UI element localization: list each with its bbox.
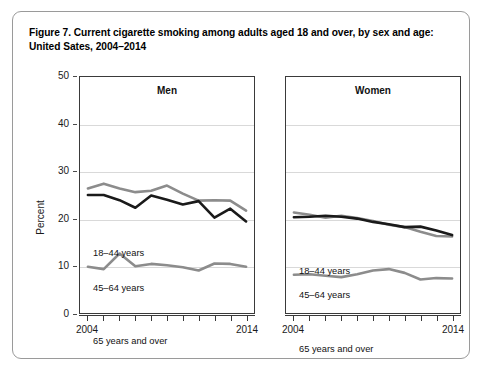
x-tick-2012 [215, 315, 216, 321]
x-label-start: 2004 [273, 324, 313, 335]
x-tick-2011 [405, 315, 406, 321]
x-tick-2014 [453, 315, 454, 321]
y-tick-label-0: 0 [45, 309, 69, 319]
series-label-men-45-64: 45–64 years [93, 283, 144, 293]
y-tick-label-20: 20 [45, 214, 69, 224]
panel-women: Women [285, 76, 461, 314]
series-label-women-45-64: 45–64 years [299, 290, 350, 300]
x-tick-2010 [183, 315, 184, 321]
x-tick-2007 [135, 315, 136, 321]
y-tick-label-30: 30 [45, 166, 69, 176]
y-tick-mark-0 [73, 314, 77, 315]
x-tick-2008 [151, 315, 152, 321]
x-label-start: 2004 [67, 324, 107, 335]
y-tick-label-50: 50 [45, 71, 69, 81]
series-label-men-65-over: 65 years and over [93, 336, 167, 346]
x-tick-2008 [357, 315, 358, 321]
plot-area: Percent 50403020100 Men 18–44 years 45–6… [13, 62, 469, 358]
series-line-45-64-years [294, 216, 452, 235]
x-label-end: 2014 [433, 324, 473, 335]
x-tick-2007 [341, 315, 342, 321]
y-tick-mark-40 [73, 124, 77, 125]
x-tick-2010 [389, 315, 390, 321]
y-tick-label-10: 10 [45, 261, 69, 271]
y-tick-label-40: 40 [45, 119, 69, 129]
x-tick-2012 [421, 315, 422, 321]
series-lines-women [286, 77, 460, 313]
x-tick-2004 [293, 315, 294, 321]
y-tick-mark-50 [73, 76, 77, 77]
y-tick-mark-10 [73, 266, 77, 267]
x-tick-2009 [373, 315, 374, 321]
series-lines-men [80, 77, 254, 313]
x-tick-2005 [103, 315, 104, 321]
x-tick-2014 [247, 315, 248, 321]
x-tick-2011 [199, 315, 200, 321]
x-tick-2005 [309, 315, 310, 321]
x-tick-2009 [167, 315, 168, 321]
x-tick-2013 [437, 315, 438, 321]
y-tick-mark-20 [73, 219, 77, 220]
x-tick-2013 [231, 315, 232, 321]
series-label-men-18-44: 18–44 years [93, 248, 144, 258]
y-tick-mark-30 [73, 171, 77, 172]
y-axis-title: Percent [35, 173, 46, 263]
x-tick-2006 [119, 315, 120, 321]
figure-card: Figure 7. Current cigarette smoking amon… [12, 11, 470, 359]
x-tick-2004 [87, 315, 88, 321]
page-title: Figure 7. Current cigarette smoking amon… [29, 26, 453, 53]
series-line-45-64-years [88, 195, 246, 221]
panel-men: Men [79, 76, 255, 314]
x-tick-2006 [325, 315, 326, 321]
series-label-women-65-over: 65 years and over [299, 344, 373, 354]
series-label-women-18-44: 18–44 years [299, 266, 350, 276]
x-label-end: 2014 [227, 324, 267, 335]
